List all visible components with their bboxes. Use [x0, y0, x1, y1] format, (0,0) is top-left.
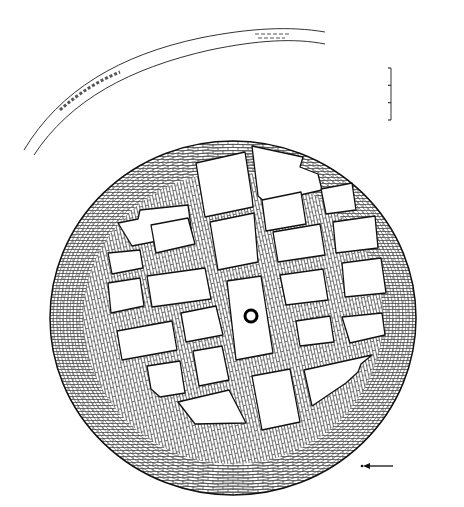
cell-15 — [342, 258, 386, 297]
cell-7 — [321, 183, 356, 214]
cell-17 — [181, 306, 223, 342]
plan-drawing — [0, 0, 464, 507]
cell-11 — [108, 278, 144, 313]
cell-5 — [210, 213, 258, 270]
cell-20 — [193, 346, 229, 386]
circular-platform — [50, 141, 416, 495]
scale-bar — [388, 68, 391, 120]
cell-18 — [296, 316, 334, 346]
outer-wall-arc — [24, 29, 325, 155]
cell-10 — [333, 216, 378, 253]
cell-1 — [196, 152, 253, 217]
north-arrow-icon — [361, 463, 393, 469]
plan-canvas — [0, 0, 464, 507]
cell-14 — [280, 269, 328, 305]
